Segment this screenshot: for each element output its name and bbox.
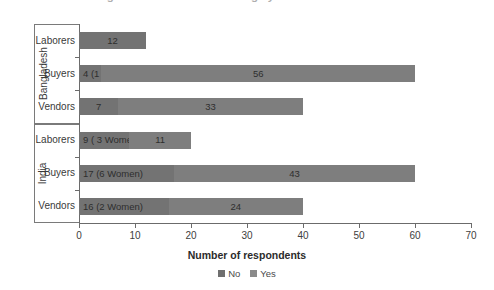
x-axis-tick-label: 50 — [353, 230, 364, 241]
chart-title: ...working around the house are largely … — [60, 0, 480, 3]
bar-segment-no: 12 — [79, 32, 146, 49]
chart-title-clipped: ...working around the house are largely … — [60, 0, 480, 3]
legend-label-no: No — [228, 268, 240, 279]
x-axis-tick-label: 70 — [465, 230, 476, 241]
x-axis-tick — [415, 223, 416, 228]
legend-item-yes: Yes — [250, 268, 276, 279]
bar-segment-value-label: 43 — [289, 169, 300, 179]
x-axis-tick — [79, 223, 80, 228]
y-axis-category-label: Laborers — [5, 35, 75, 46]
bar-bangladesh-laborers: 12 — [79, 32, 146, 49]
y-axis-category-label: Buyers — [5, 167, 75, 178]
bar-segment-value-label: 24 — [231, 202, 242, 212]
y-axis-category-label: Vendors — [5, 101, 75, 112]
bar-segment-no: 7 — [79, 98, 118, 115]
x-axis-tick — [247, 223, 248, 228]
y-axis-line — [79, 24, 80, 223]
bar-india-buyers: 17 (6 Women)43 — [79, 165, 415, 182]
bar-segment-no: 16 (2 Women) — [79, 198, 169, 215]
plot-area: 010203040506070124 (1 Woman)567339 ( 3 W… — [79, 24, 471, 223]
bar-segment-value-label: 16 (2 Women) — [83, 202, 143, 212]
bar-segment-yes: 33 — [118, 98, 303, 115]
x-axis-tick-label: 40 — [297, 230, 308, 241]
x-axis-tick-label: 10 — [129, 230, 140, 241]
legend-swatch-yes-icon — [250, 270, 257, 277]
x-axis-tick-label: 30 — [241, 230, 252, 241]
bar-segment-no: 4 (1 Woman) — [79, 65, 101, 82]
bar-segment-value-label: 7 — [96, 102, 101, 112]
x-axis-line — [79, 223, 471, 224]
bar-segment-yes: 56 — [101, 65, 415, 82]
y-axis-category-label: Laborers — [5, 134, 75, 145]
bar-india-laborers: 9 ( 3 Women)11 — [79, 132, 191, 149]
x-axis-tick-label: 60 — [409, 230, 420, 241]
bar-segment-yes: 43 — [174, 165, 415, 182]
bar-segment-no: 9 ( 3 Women) — [79, 132, 129, 149]
bar-segment-value-label: 33 — [205, 102, 216, 112]
x-axis-tick — [191, 223, 192, 228]
bar-segment-no: 17 (6 Women) — [79, 165, 174, 182]
bar-india-vendors: 16 (2 Women)24 — [79, 198, 303, 215]
bar-segment-yes: 24 — [169, 198, 303, 215]
legend-label-yes: Yes — [260, 268, 276, 279]
bar-segment-value-label: 17 (6 Women) — [83, 169, 143, 179]
legend-item-no: No — [218, 268, 240, 279]
legend-swatch-no-icon — [218, 270, 225, 277]
chart-legend: No Yes — [0, 268, 494, 279]
bar-chart: ...working around the house are largely … — [0, 0, 494, 290]
x-axis-tick — [303, 223, 304, 228]
x-axis-tick — [135, 223, 136, 228]
bar-bangladesh-vendors: 733 — [79, 98, 303, 115]
bar-segment-value-label: 11 — [155, 135, 165, 145]
y-axis-category-label: Vendors — [5, 200, 75, 211]
x-axis-tick-label: 20 — [185, 230, 196, 241]
x-axis-tick — [471, 223, 472, 228]
x-axis-tick — [359, 223, 360, 228]
bar-segment-value-label: 56 — [253, 69, 264, 79]
bar-segment-value-label: 12 — [107, 36, 118, 46]
y-axis-category-label: Buyers — [5, 68, 75, 79]
bar-segment-yes: 11 — [129, 132, 191, 149]
bar-bangladesh-buyers: 4 (1 Woman)56 — [79, 65, 415, 82]
x-axis-title: Number of respondents — [0, 249, 494, 261]
x-axis-tick-label: 0 — [76, 230, 82, 241]
